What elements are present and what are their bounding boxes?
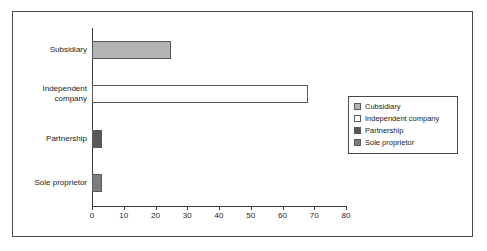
bar-subsidiary[interactable] [92,41,171,59]
legend-item-0[interactable]: Cubsidiary [354,101,452,112]
bar-row-subsidiary [92,28,346,72]
bar-row-sole-proprietor [92,161,346,205]
x-axis-tick-50 [251,206,252,210]
y-axis-labels: Subsidiary Independent company Partnersh… [0,28,92,205]
plot-area [92,28,346,205]
legend-label: Independent company [365,114,439,124]
y-label-slot-sole-proprietor: Sole proprietor [0,161,92,205]
legend-item-3[interactable]: Sole proprietor [354,137,452,148]
legend-label: Sole proprietor [365,138,414,148]
bar-row-partnership [92,117,346,161]
bar-partnership[interactable] [92,130,102,148]
y-label-slot-partnership: Partnership [0,117,92,161]
x-axis-tick-label-10: 10 [119,211,128,220]
legend-swatch-icon [354,127,361,134]
y-label-slot-subsidiary: Subsidiary [0,28,92,72]
x-axis-tick-label-60: 60 [278,211,287,220]
y-axis-label-sole-proprietor: Sole proprietor [8,178,92,188]
x-axis-tick-label-30: 30 [183,211,192,220]
x-axis-tick-60 [283,206,284,210]
legend-swatch-icon [354,115,361,122]
x-axis-tick-label-80: 80 [342,211,351,220]
bar-sole-proprietor[interactable] [92,174,102,192]
chart-figure: Subsidiary Independent company Partnersh… [0,0,487,251]
bar-independent-company[interactable] [92,85,308,103]
legend-swatch-icon [354,103,361,110]
legend-item-1[interactable]: Independent company [354,113,452,124]
y-label-slot-independent-company: Independent company [0,72,92,116]
y-axis-label-subsidiary: Subsidiary [8,45,92,55]
x-axis-tick-0 [92,206,93,210]
x-axis-tick-80 [346,206,347,210]
x-axis-tick-70 [314,206,315,210]
legend-label: Cubsidiary [365,102,400,112]
legend-item-2[interactable]: Partnership [354,125,452,136]
x-axis-ticks: 01020304050607080 [92,206,347,226]
x-axis-tick-label-70: 70 [310,211,319,220]
chart-legend: CubsidiaryIndependent companyPartnership… [348,96,458,154]
x-axis-tick-label-0: 0 [90,211,94,220]
x-axis-tick-10 [124,206,125,210]
x-axis-tick-40 [219,206,220,210]
legend-label: Partnership [365,126,403,136]
y-axis-label-partnership: Partnership [8,134,92,144]
bar-row-independent-company [92,72,346,116]
y-axis-label-independent-company: Independent company [8,84,92,104]
x-axis-tick-label-20: 20 [151,211,160,220]
x-axis-tick-label-40: 40 [215,211,224,220]
legend-swatch-icon [354,139,361,146]
x-axis-tick-label-50: 50 [246,211,255,220]
x-axis-tick-30 [187,206,188,210]
x-axis-tick-20 [156,206,157,210]
